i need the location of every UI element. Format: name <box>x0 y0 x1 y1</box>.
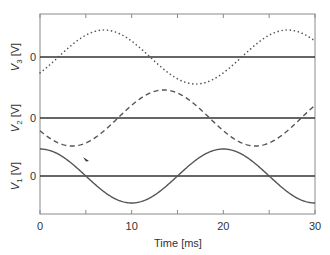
x-tick-label-0: 0 <box>37 220 43 232</box>
arrow-mark-icon <box>83 157 89 162</box>
x-tick-label-30: 30 <box>309 220 321 232</box>
v3-zero-label: 0 <box>30 51 36 63</box>
plot-frame <box>40 14 315 214</box>
chart: 0 10 20 30 Time [ms] 0 0 0 V3 [V] V2 [V]… <box>0 0 330 255</box>
x-axis-title: Time [ms] <box>154 237 202 249</box>
x-axis-ticks <box>40 14 315 214</box>
v1-zero-label: 0 <box>30 170 36 182</box>
v1-axis-label: V1 [V] <box>9 162 24 190</box>
v3-axis-label: V3 [V] <box>9 43 24 71</box>
x-tick-label-20: 20 <box>217 220 229 232</box>
x-tick-label-10: 10 <box>126 220 138 232</box>
v2-axis-label: V2 [V] <box>9 104 24 132</box>
v2-zero-label: 0 <box>30 112 36 124</box>
